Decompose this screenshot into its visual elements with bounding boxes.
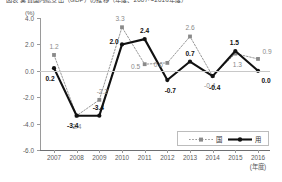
chart-title: 図表 実質国内総支出（GDP）の推移（年度、2007～2016年度） [6, 0, 280, 3]
x-axis-tick-mark [54, 150, 55, 153]
data-point-label: -0.7 [165, 87, 176, 94]
y-axis-tick-mark [37, 18, 40, 19]
y-axis-tick-mark [37, 44, 40, 45]
data-point-marker [97, 114, 101, 118]
data-point-marker [120, 42, 124, 46]
data-point-label: 2.0 [109, 38, 118, 45]
chart-container: 図表 実質国内総支出（GDP）の推移（年度、2007～2016年度） (%) 4… [0, 0, 282, 182]
data-point-marker [165, 61, 169, 65]
data-point-marker [120, 25, 124, 29]
y-axis-tick-label: -6.0 [10, 147, 34, 154]
data-point-marker [233, 49, 237, 53]
legend-item-用[interactable]: 用 [227, 135, 261, 144]
data-point-label: 0.2 [45, 75, 54, 82]
data-point-marker [165, 78, 169, 82]
data-point-label: 0.9 [262, 47, 271, 54]
y-axis-tick-label: 4.0 [10, 15, 34, 22]
data-point-marker [52, 53, 56, 57]
data-point-marker [143, 62, 147, 66]
legend-label: 用 [255, 135, 261, 144]
data-point-label: 0.5 [131, 63, 140, 70]
y-axis-tick-mark [37, 150, 40, 151]
data-point-marker [233, 52, 237, 56]
data-point-label: 0.6 [154, 60, 163, 67]
data-point-label: 0.7 [185, 49, 194, 56]
data-point-label: 1.3 [233, 60, 242, 67]
legend-item-国[interactable]: 国 [188, 135, 222, 144]
data-point-marker [188, 59, 192, 63]
x-axis-tick-mark [235, 150, 236, 153]
data-point-label: 1.2 [49, 42, 58, 49]
y-axis-tick-mark [37, 124, 40, 125]
data-point-marker [188, 35, 192, 39]
y-axis-line [40, 18, 41, 150]
data-point-marker [256, 57, 260, 61]
data-point-marker [52, 66, 56, 70]
data-point-marker [211, 74, 215, 78]
y-axis-tick-label: 2.0 [10, 41, 34, 48]
data-point-label: 2.6 [185, 24, 194, 31]
data-point-marker [143, 37, 147, 41]
data-point-label: 1.5 [230, 39, 239, 46]
data-point-marker [75, 114, 79, 118]
y-axis-tick-label: -4.0 [10, 120, 34, 127]
x-axis-tick-mark [258, 150, 259, 153]
series-line-用 [54, 39, 258, 116]
data-point-label: 3.3 [115, 15, 124, 22]
x-axis-unit-label: (年度) [241, 162, 275, 171]
data-point-label: -3.4 [93, 103, 104, 110]
legend-swatch [227, 135, 253, 144]
x-axis-tick-label: 2016 [241, 154, 275, 161]
x-axis-tick-mark [77, 150, 78, 153]
x-axis-tick-mark [167, 150, 168, 153]
x-axis-tick-mark [99, 150, 100, 153]
zero-reference-line [40, 71, 270, 72]
y-axis-tick-label: 0.0 [10, 67, 34, 74]
legend-swatch [188, 135, 214, 144]
data-point-label: -2.2 [97, 87, 108, 94]
x-axis-tick-mark [145, 150, 146, 153]
y-axis-tick-mark [37, 97, 40, 98]
data-point-label: 2.4 [140, 27, 149, 34]
data-point-label: -3.4 [67, 121, 78, 128]
x-axis-tick-mark [213, 150, 214, 153]
data-point-marker [97, 98, 101, 102]
data-point-marker [75, 114, 79, 118]
data-point-label: 0.0 [261, 76, 270, 83]
data-point-marker [211, 74, 215, 78]
x-axis-tick-mark [190, 150, 191, 153]
chart-legend: 国用 [177, 131, 269, 146]
y-axis-tick-label: -2.0 [10, 94, 34, 101]
legend-label: 国 [216, 135, 222, 144]
x-axis-tick-mark [122, 150, 123, 153]
data-point-label: -0.4 [209, 84, 220, 91]
